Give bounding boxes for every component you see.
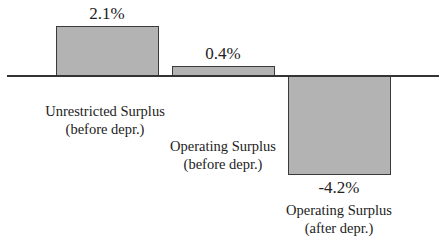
value-label-bar2: 0.4% <box>163 44 283 64</box>
zero-axis-line <box>7 75 439 77</box>
value-label-bar1: 2.1% <box>47 4 167 24</box>
category-label-bar1-line2: (before depr.) <box>20 120 190 138</box>
category-label-bar3-line1: Operating Surplus <box>254 201 424 219</box>
category-label-bar2-line1: Operating Surplus <box>138 137 308 155</box>
category-label-bar3-line2: (after depr.) <box>254 219 424 237</box>
category-label-bar1-line1: Unrestricted Surplus <box>20 102 190 120</box>
category-label-bar3: Operating Surplus (after depr.) <box>254 201 424 237</box>
category-label-bar2-line2: (before depr.) <box>138 155 308 173</box>
category-label-bar2: Operating Surplus (before depr.) <box>138 137 308 173</box>
value-label-bar3: -4.2% <box>279 178 399 198</box>
category-label-bar1: Unrestricted Surplus (before depr.) <box>20 102 190 138</box>
bar-unrestricted-surplus-before-depr <box>56 26 159 77</box>
